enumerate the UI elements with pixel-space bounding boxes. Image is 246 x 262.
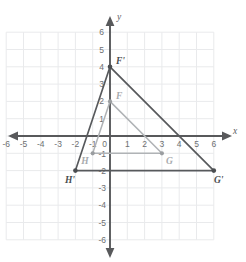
y-tick-minus6: -6 [98,235,106,245]
y-tick-5: 5 [99,45,104,55]
y-axis-arrow-up [106,16,115,26]
axis-lines [8,16,232,258]
vertex-label-g: G [166,156,173,166]
vertex-point-f-prime [108,65,113,70]
vertex-point-g [160,151,164,155]
x-tick-minus4: -4 [37,139,45,149]
y-axis-label: y [116,12,122,22]
x-tick-1: 1 [125,139,130,149]
vertex-point-f [108,99,112,103]
coordinate-plane-figure: x y -6 -5 -4 -3 -2 -1 0 1 2 3 4 5 6 6 5 … [0,0,246,262]
x-tick-4: 4 [177,139,182,149]
x-tick-minus3: -3 [54,139,62,149]
x-tick-minus5: -5 [20,139,28,149]
x-tick-minus6: -6 [2,139,10,149]
vertex-label-h: H [80,156,89,166]
x-tick-minus2: -2 [72,139,80,149]
y-axis-arrow-down [106,248,115,258]
vertex-point-h-prime [73,168,78,173]
vertex-label-f: F [115,91,123,101]
y-tick-6: 6 [99,27,104,37]
x-tick-zero: 0 [102,139,107,149]
vertex-label-h-prime: H' [64,175,75,185]
y-tick-minus3: -3 [98,183,106,193]
x-tick-6: 6 [211,139,216,149]
x-tick-2: 2 [142,139,147,149]
vertex-label-f-prime: F' [115,56,125,66]
graph-canvas: x y -6 -5 -4 -3 -2 -1 0 1 2 3 4 5 6 6 5 … [0,0,246,262]
x-tick-5: 5 [194,139,199,149]
x-tick-3: 3 [160,139,165,149]
y-tick-4: 4 [99,62,104,72]
vertex-point-g-prime [212,168,217,173]
vertex-label-g-prime: G' [214,175,224,185]
y-tick-minus4: -4 [98,200,106,210]
y-tick-minus5: -5 [98,218,106,228]
vertex-point-h [91,151,95,155]
x-axis-label: x [232,126,238,136]
x-axis-arrow-right [222,132,232,141]
